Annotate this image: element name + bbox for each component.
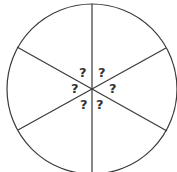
sector-label-top-right: ?: [98, 65, 106, 80]
sector-diagram: ? ? ? ? ? ?: [0, 0, 177, 172]
sector-label-bottom-right: ?: [96, 97, 104, 112]
sector-label-right: ?: [109, 81, 117, 96]
sector-label-left: ?: [71, 81, 79, 96]
sector-label-top-left: ?: [79, 65, 87, 80]
sector-label-bottom-left: ?: [80, 97, 88, 112]
